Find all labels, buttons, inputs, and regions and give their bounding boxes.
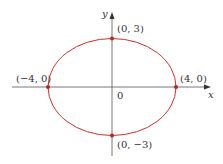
y-axis-arrow-icon [110, 12, 115, 19]
x-axis-label: x [208, 89, 214, 100]
point-label-left: (−4, 0) [16, 73, 51, 84]
point-left [46, 85, 50, 89]
point-label-bottom: (0, −3) [117, 139, 152, 150]
point-top [110, 37, 114, 41]
point-right [174, 85, 178, 89]
origin-label: 0 [117, 90, 123, 101]
point-bottom [110, 134, 114, 138]
y-axis-label: y [101, 8, 108, 19]
ellipse-diagram: y x 0 (0, 3) (−4, 0) (4, 0) (0, −3) [0, 0, 223, 164]
point-label-right: (4, 0) [180, 73, 207, 84]
point-label-top: (0, 3) [117, 23, 144, 34]
